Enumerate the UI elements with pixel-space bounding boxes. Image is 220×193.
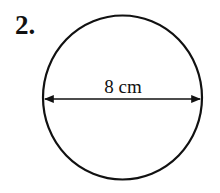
circle-outline — [43, 16, 202, 180]
diameter-label: 8 cm — [104, 76, 142, 97]
circle-figure: 8 cm — [0, 0, 220, 193]
